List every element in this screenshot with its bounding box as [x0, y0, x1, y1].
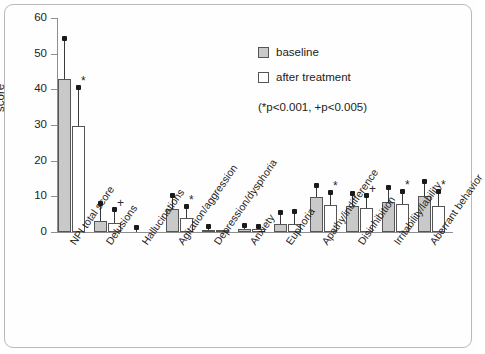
error-bar-cap	[62, 36, 67, 41]
error-bar-cap	[422, 179, 427, 184]
bar-baseline	[274, 224, 287, 232]
legend-label-baseline: baseline	[276, 46, 319, 58]
error-bar-line	[64, 39, 65, 78]
legend-label-after-treatment: after treatment	[276, 71, 351, 83]
error-bar-cap	[386, 185, 391, 190]
y-axis-tick	[51, 54, 57, 55]
significance-marker: *	[333, 180, 338, 192]
y-axis-title: score	[0, 84, 6, 112]
error-bar-line	[438, 192, 439, 206]
significance-marker: *	[81, 75, 86, 87]
legend-swatch-after-treatment	[258, 72, 269, 83]
error-bar-line	[78, 88, 79, 126]
p-value-note: (*p<0.001, +p<0.005)	[258, 101, 367, 113]
y-axis-tick-label: 30	[11, 119, 47, 131]
error-bar-cap	[242, 223, 247, 228]
legend-swatch-baseline	[258, 47, 269, 58]
significance-marker: *	[189, 194, 194, 206]
y-axis-tick	[51, 18, 57, 19]
y-axis-tick	[51, 125, 57, 126]
bar-baseline	[238, 229, 251, 232]
y-axis-tick-label: 60	[11, 12, 47, 24]
significance-marker: *	[405, 179, 410, 191]
bar-baseline	[94, 221, 107, 232]
legend: baseline after treatment	[258, 46, 351, 96]
legend-item-baseline: baseline	[258, 46, 351, 58]
error-bar-cap	[134, 225, 139, 230]
y-axis-tick-label: 10	[11, 190, 47, 202]
y-axis-tick-label: 50	[11, 48, 47, 60]
error-bar-cap	[314, 183, 319, 188]
significance-marker: +	[117, 197, 124, 209]
error-bar-cap	[292, 209, 297, 214]
bar-baseline	[202, 230, 215, 232]
y-axis-tick	[51, 232, 57, 233]
y-axis-tick-label: 20	[11, 155, 47, 167]
y-axis-tick	[51, 89, 57, 90]
y-axis-tick-label: 40	[11, 83, 47, 95]
bar-baseline	[58, 79, 71, 232]
error-bar-cap	[206, 224, 211, 229]
legend-item-after-treatment: after treatment	[258, 71, 351, 83]
y-axis-tick-label: 0	[11, 226, 47, 238]
y-axis-tick	[51, 161, 57, 162]
y-axis-tick	[51, 196, 57, 197]
error-bar-cap	[278, 210, 283, 215]
